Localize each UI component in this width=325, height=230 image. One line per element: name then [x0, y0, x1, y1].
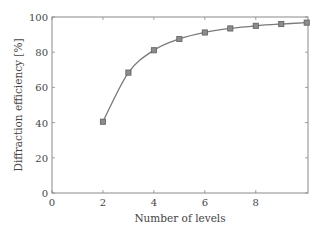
x-tick-label: 8 — [253, 197, 259, 208]
y-tick-label: 80 — [35, 47, 48, 58]
square-marker-icon — [202, 30, 207, 35]
square-marker-icon — [253, 23, 258, 28]
square-marker-icon — [279, 21, 284, 26]
x-tick-label: 0 — [49, 197, 55, 208]
square-marker-icon — [100, 119, 105, 124]
square-marker-icon — [228, 26, 233, 31]
x-tick-label: 6 — [202, 197, 208, 208]
y-tick-label: 100 — [29, 12, 48, 23]
y-tick-label: 20 — [35, 153, 48, 164]
square-marker-icon — [177, 36, 182, 41]
x-axis-label: Number of levels — [134, 212, 225, 224]
y-tick-label: 40 — [35, 118, 48, 129]
data-series — [100, 20, 309, 124]
y-tick-label: 0 — [42, 188, 48, 199]
y-axis-label: Diffraction efficiency [%] — [12, 39, 24, 172]
square-marker-icon — [304, 20, 309, 25]
plot-frame — [52, 17, 308, 193]
series-line — [103, 23, 307, 122]
x-tick-label: 2 — [100, 197, 106, 208]
y-axis-ticks: 020406080100 — [29, 12, 308, 199]
chart: 02468 020406080100 Number of levels Diff… — [0, 0, 325, 230]
square-marker-icon — [126, 70, 131, 75]
x-tick-label: 4 — [151, 197, 157, 208]
plot-area-border — [52, 17, 308, 193]
square-marker-icon — [151, 48, 156, 53]
y-tick-label: 60 — [35, 82, 48, 93]
x-axis-ticks: 02468 — [49, 17, 259, 208]
